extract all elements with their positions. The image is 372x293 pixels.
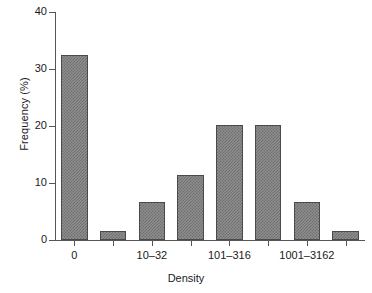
frequency-density-bar-chart: Frequency (%) 010203040 010–32101–316100… xyxy=(0,0,372,293)
x-axis-tick-mark xyxy=(229,241,230,246)
bar xyxy=(177,175,203,240)
x-axis-tick-mark xyxy=(74,241,75,246)
x-axis-tick-mark xyxy=(346,241,347,246)
bar xyxy=(61,55,87,240)
x-axis-tick-mark xyxy=(307,241,308,246)
x-axis-tick-label: 10–32 xyxy=(137,249,168,262)
x-axis-title: Density xyxy=(0,272,372,284)
bar xyxy=(332,231,358,240)
x-axis-tick-label: 101–316 xyxy=(208,249,251,262)
bar xyxy=(216,125,242,240)
bar xyxy=(139,202,165,240)
bar xyxy=(100,231,126,240)
x-axis-tick-mark xyxy=(152,241,153,246)
bar xyxy=(294,202,320,240)
x-axis-tick-mark xyxy=(268,241,269,246)
bar xyxy=(255,125,281,240)
x-axis-tick-label: 0 xyxy=(71,249,77,262)
x-axis-tick-mark xyxy=(191,241,192,246)
x-axis-tick-mark xyxy=(113,241,114,246)
x-axis-tick-label: 1001–3162 xyxy=(279,249,334,262)
x-axis-line xyxy=(55,240,365,241)
